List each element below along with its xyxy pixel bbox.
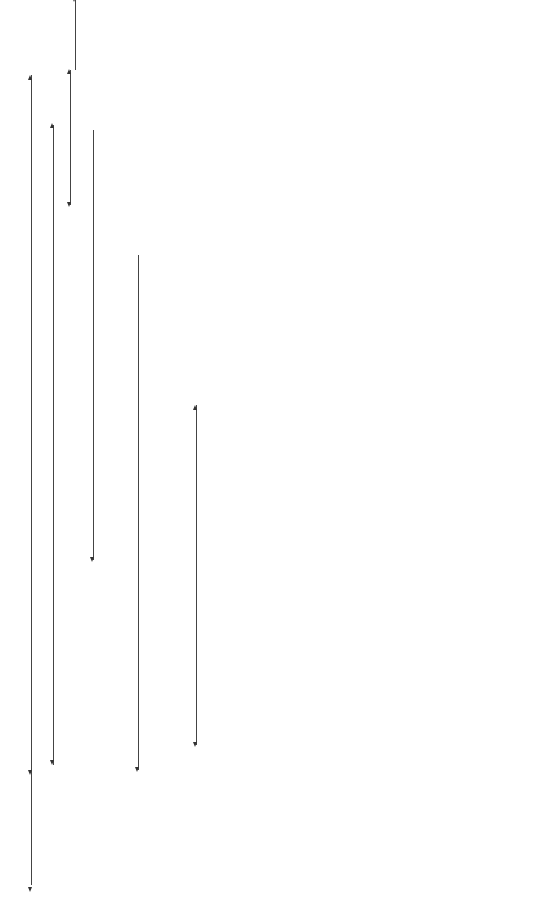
definition-line [70, 70, 71, 205]
arrow-right-icon [67, 69, 71, 74]
diagram-canvas [0, 0, 560, 900]
arrow-left-icon [50, 760, 54, 765]
development-line [93, 130, 94, 560]
system-requirements-line [75, 0, 76, 70]
arrow-left-icon [28, 887, 32, 892]
arrow-left-icon [193, 742, 197, 747]
electrical-development-line [31, 75, 32, 775]
arrow-right-icon [28, 75, 32, 80]
verification-validation-line [53, 125, 54, 765]
test-phase-line [196, 405, 197, 745]
design-implementation-line [138, 255, 139, 770]
arrow-right-icon [193, 405, 197, 410]
arrow-left-icon [67, 202, 71, 207]
arrow-right-icon [50, 123, 54, 128]
system-information-line [31, 775, 32, 885]
arrow-left-icon [135, 767, 139, 772]
arrow-left-icon [72, 0, 76, 2]
arrow-left-icon [90, 557, 94, 562]
